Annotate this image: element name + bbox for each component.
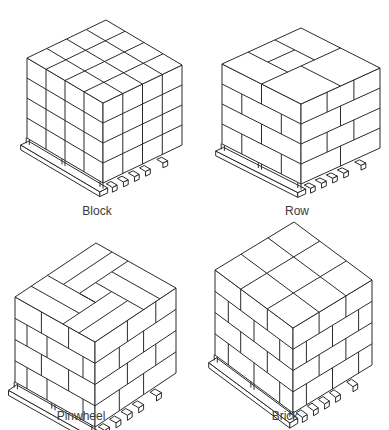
pallet-brick-pattern-drawing [0, 0, 389, 430]
label-brick: Brick [225, 409, 345, 423]
diagram-brick [0, 0, 389, 430]
